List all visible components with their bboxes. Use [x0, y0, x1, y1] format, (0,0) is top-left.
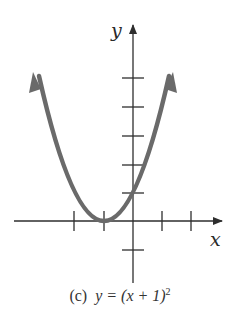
figure-caption: (c)y = (x + 1)2: [0, 286, 240, 305]
x-axis-label: x: [210, 228, 221, 250]
parabola-graph: y x: [0, 0, 240, 321]
caption-label: (c): [69, 287, 87, 304]
caption-exponent: 2: [166, 286, 171, 297]
parabola-curve: [39, 76, 169, 221]
caption-equation: y = (x + 1): [95, 287, 165, 304]
y-axis-label: y: [110, 19, 122, 41]
